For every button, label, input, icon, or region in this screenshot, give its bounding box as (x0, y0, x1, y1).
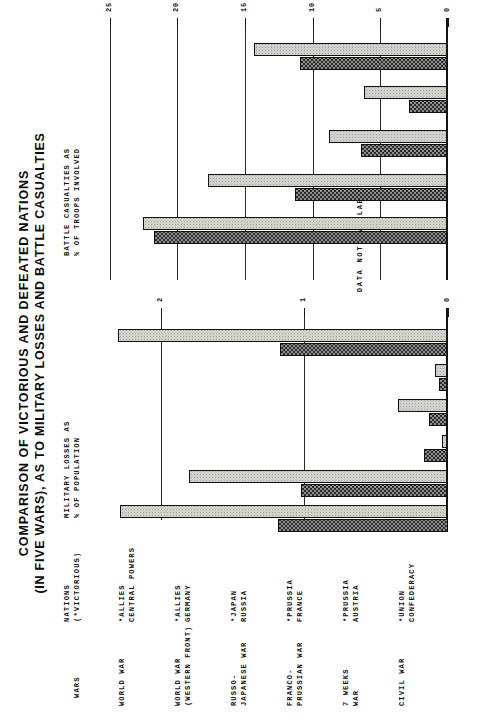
axis-tick (313, 18, 314, 27)
war-label: FRANCO-PRUSSIAN WAR (286, 626, 305, 706)
war-label: 7 WEEKSWAR (342, 626, 361, 706)
bar-victorious (409, 101, 448, 114)
war-label: WORLD WAR(WESTERN FRONT) (174, 626, 193, 706)
bar-defeated (189, 470, 448, 483)
defeated-label: AUSTRIA (352, 526, 362, 622)
column-header-nations-line2: (*VICTORIOUS) (72, 552, 82, 622)
nation-pair-label: *PRUSSIAAUSTRIA (342, 526, 361, 622)
axis-tick (448, 308, 449, 317)
war-label-line-2: JAPANESE WAR (240, 626, 250, 706)
axis-tick (448, 18, 449, 27)
defeated-label: FRANCE (296, 526, 306, 622)
victor-label: *ALLIES (174, 526, 184, 622)
axis-tick (161, 308, 162, 317)
column-header-nations-line1: NATIONS (62, 552, 72, 622)
war-label: CIVIL WAR (398, 626, 408, 706)
axis-tick (110, 18, 111, 27)
axis-tick-label: 10 (308, 2, 316, 12)
bar-victorious (424, 449, 448, 462)
column-header-battle-casualties: BATTLE CASUALTIES AS % OF TROOPS INVOLVE… (62, 148, 82, 256)
axis-tick-label: 0 (443, 7, 451, 12)
defeated-label: CENTRAL POWERS (128, 526, 138, 622)
nation-pair-label: *ALLIESCENTRAL POWERS (118, 526, 137, 622)
axis-tick-label: 20 (172, 2, 180, 12)
war-label-line-1: RUSSO- (230, 626, 240, 706)
axis-tick-label: 15 (240, 2, 248, 12)
axis-tick-label: 0 (443, 297, 451, 302)
nation-pair-label: *JAPANRUSSIA (230, 526, 249, 622)
war-label-line-1: FRANCO- (286, 626, 296, 706)
war-label-line-1: 7 WEEKS (342, 626, 352, 706)
chart-battle-casualties: 0510152025DATA NOT AVAILABLE (96, 18, 448, 280)
bar-victorious (301, 484, 448, 497)
nation-pair-label: *UNIONCONFEDERACY (398, 526, 417, 622)
chart-military-losses: 012 (96, 308, 448, 520)
axis-tick (177, 18, 178, 27)
victor-label: *ALLIES (118, 526, 128, 622)
bar-defeated (208, 174, 448, 187)
figure: COMPARISON OF VICTORIOUS AND DEFEATED NA… (0, 0, 486, 726)
axis-tick-label: 1 (299, 297, 307, 302)
bar-defeated (254, 43, 448, 56)
column-header-nations: NATIONS (*VICTORIOUS) (62, 552, 82, 622)
victor-label: *UNION (398, 526, 408, 622)
war-label-line-1: WORLD WAR (118, 626, 128, 706)
column-header-military-losses: MILITARY LOSSES AS % OF POPULATION (62, 421, 82, 518)
column-header-military-line2: % OF POPULATION (72, 421, 82, 518)
war-label-line-2: (WESTERN FRONT) (184, 626, 194, 706)
defeated-label: CONFEDERACY (408, 526, 418, 622)
war-label-line-2: WAR (352, 626, 362, 706)
column-header-battle-line2: % OF TROOPS INVOLVED (72, 148, 82, 256)
war-label-line-1: CIVIL WAR (398, 626, 408, 706)
axis-tick-label: 25 (105, 2, 113, 12)
title-line-2: (IN FIVE WARS), AS TO MILITARY LOSSES AN… (32, 0, 48, 726)
bar-victorious (154, 232, 448, 245)
bar-defeated (118, 329, 448, 342)
bar-defeated (120, 505, 448, 518)
column-header-military-line1: MILITARY LOSSES AS (62, 421, 72, 518)
bar-victorious (300, 57, 448, 70)
war-label-line-2: PRUSSIAN WAR (296, 626, 306, 706)
victor-label: *JAPAN (230, 526, 240, 622)
bar-victorious (278, 519, 448, 532)
bar-victorious (280, 343, 448, 356)
axis-tick (245, 18, 246, 27)
column-header-wars: WARS (72, 676, 82, 698)
defeated-label: RUSSIA (240, 526, 250, 622)
plot-area-military-losses: 012 (96, 308, 448, 520)
column-header-battle-line1: BATTLE CASUALTIES AS (62, 148, 72, 256)
war-label: RUSSO-JAPANESE WAR (230, 626, 249, 706)
gridline (110, 18, 111, 280)
rotated-figure-frame: COMPARISON OF VICTORIOUS AND DEFEATED NA… (0, 0, 486, 726)
axis-baseline-battle (446, 18, 448, 280)
bar-defeated (398, 399, 448, 412)
bar-victorious (295, 188, 448, 201)
defeated-label: GERMANY (184, 526, 194, 622)
axis-tick-label: 5 (375, 7, 383, 12)
victor-label: *PRUSSIA (286, 526, 296, 622)
axis-tick (380, 18, 381, 27)
bar-victorious (361, 144, 448, 157)
axis-tick-label: 2 (156, 297, 164, 302)
page-title: COMPARISON OF VICTORIOUS AND DEFEATED NA… (16, 0, 48, 726)
title-line-1: COMPARISON OF VICTORIOUS AND DEFEATED NA… (16, 0, 32, 726)
plot-area-battle-casualties: 0510152025DATA NOT AVAILABLE (96, 18, 448, 280)
bar-defeated (364, 87, 448, 100)
nation-pair-label: *ALLIESGERMANY (174, 526, 193, 622)
bar-defeated (143, 218, 448, 231)
war-label-line-1: WORLD WAR (174, 626, 184, 706)
war-label: WORLD WAR (118, 626, 128, 706)
victor-label: *PRUSSIA (342, 526, 352, 622)
bar-defeated (329, 130, 448, 143)
axis-tick (304, 308, 305, 317)
nation-pair-label: *PRUSSIAFRANCE (286, 526, 305, 622)
axis-baseline-military (446, 308, 448, 520)
